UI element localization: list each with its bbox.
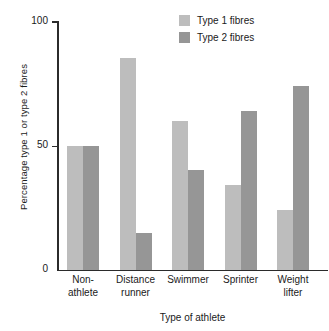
y-axis-title: Percentage type 1 or type 2 fibres	[16, 2, 32, 272]
legend-label: Type 2 fibres	[197, 32, 254, 43]
bar	[67, 146, 83, 271]
bar	[293, 86, 309, 270]
bar	[277, 210, 293, 270]
x-axis-category-label: Weight lifter	[263, 274, 323, 299]
y-tick-label-50: 50	[4, 140, 48, 150]
bar	[136, 233, 152, 270]
legend-swatch-icon	[179, 15, 190, 26]
bar-group	[277, 21, 309, 270]
x-axis-category-label: Distance runner	[106, 274, 166, 299]
legend-item-type-1: Type 1 fibres	[179, 12, 254, 29]
legend: Type 1 fibres Type 2 fibres	[179, 12, 254, 46]
y-tick-label-0: 0	[4, 264, 48, 274]
y-tick-label-100: 100	[4, 16, 48, 26]
bar	[241, 111, 257, 270]
x-axis-category-label: Swimmer	[158, 274, 218, 287]
x-axis-title: Type of athlete	[57, 312, 328, 323]
legend-swatch-icon	[179, 32, 190, 43]
bar	[83, 146, 99, 271]
bar	[120, 58, 136, 270]
bar-group	[67, 21, 99, 270]
x-axis-category-label: Sprinter	[211, 274, 271, 287]
bar-group	[120, 21, 152, 270]
bar-chart: Percentage type 1 or type 2 fibres 100 5…	[0, 0, 329, 331]
bar-group	[172, 21, 204, 270]
bar-group	[225, 21, 257, 270]
bar	[225, 185, 241, 270]
x-axis-category-label: Non- athlete	[53, 274, 113, 299]
plot-area	[58, 21, 328, 270]
bar	[172, 121, 188, 270]
legend-item-type-2: Type 2 fibres	[179, 29, 254, 46]
legend-label: Type 1 fibres	[197, 15, 254, 26]
bar	[188, 170, 204, 270]
